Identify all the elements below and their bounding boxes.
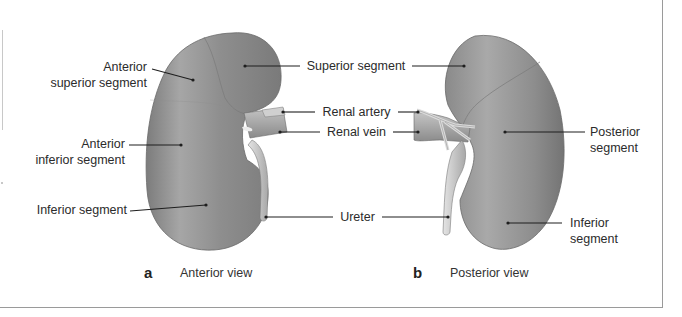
label-inferior-segment-a: Inferior segment [0, 203, 127, 218]
caption-anterior-view: Anterior view [180, 266, 252, 280]
label-anterior-superior-line2: superior segment [20, 76, 147, 91]
label-inferior-segment-b-line2: segment [570, 232, 618, 247]
label-renal-artery: Renal artery [315, 105, 398, 120]
label-anterior-inferior-line1: Anterior [0, 137, 125, 152]
label-inferior-segment-b-line1: Inferior [570, 216, 609, 231]
ureter-b [443, 140, 466, 235]
panel-letter-b: b [413, 264, 422, 281]
label-posterior-segment-line1: Posterior [590, 125, 640, 140]
caption-posterior-view: Posterior view [450, 266, 529, 280]
label-anterior-inferior-line2: inferior segment [0, 153, 125, 168]
label-renal-vein: Renal vein [320, 125, 393, 140]
label-anterior-superior-line1: Anterior [20, 60, 147, 75]
label-ureter: Ureter [333, 210, 382, 225]
label-superior-segment: Superior segment [300, 59, 412, 74]
label-posterior-segment-line2: segment [590, 141, 638, 156]
panel-letter-a: a [144, 264, 152, 281]
